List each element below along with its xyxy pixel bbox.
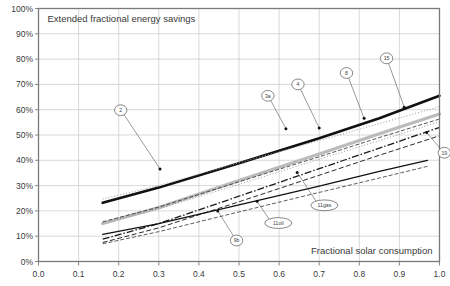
y-tick-label: 100% [11,4,33,14]
callout-leader-3a [271,101,286,129]
callout-label-3a: 3a [265,93,271,99]
callout-anchor-dot [363,117,366,120]
chart-figure: 0%10%20%30%40%50%60%70%80%90%100%0.00.10… [0,0,450,286]
axis-tick-labels: 0%10%20%30%40%50%60%70%80%90%100%0.00.10… [11,4,445,279]
x-tick-label: 0.6 [273,269,285,279]
callout-label-2: 2 [119,107,122,113]
x-tick-label: 0.3 [153,269,165,279]
callout-label-11gas: 11gas [318,202,332,208]
x-tick-label: 1.0 [434,269,446,279]
y-tick-label: 0% [21,257,34,267]
x-axis-caption: Fractional solar consumption [311,245,432,256]
callout-label-19: 19 [441,150,447,156]
y-tick-label: 20% [16,206,33,216]
x-tick-label: 0.4 [193,269,205,279]
callout-anchor-dot [425,131,428,134]
x-tick-label: 0.1 [73,269,85,279]
callout-leader-9b [218,211,234,236]
x-tick-label: 0.8 [353,269,365,279]
callout-anchor-dot [403,106,406,109]
callout-anchor-dot [216,209,219,212]
x-tick-label: 0.9 [393,269,405,279]
page-title: Extended fractional energy savings [48,13,196,24]
callout-anchor-dot [159,167,162,170]
y-tick-label: 80% [16,54,33,64]
line-chart-svg: 0%10%20%30%40%50%60%70%80%90%100%0.00.10… [0,0,450,286]
y-tick-label: 10% [16,231,33,241]
y-tick-label: 30% [16,181,33,191]
x-tick-label: 0.2 [113,269,125,279]
x-tick-label: 0.5 [233,269,245,279]
callout-anchor-dot [296,171,299,174]
y-tick-label: 60% [16,105,33,115]
callout-label-15: 15 [384,55,390,61]
y-tick-label: 50% [16,130,33,140]
x-tick-label: 0.7 [313,269,325,279]
x-tick-label: 0.0 [33,269,45,279]
callout-label-4: 4 [297,81,300,87]
y-tick-label: 70% [16,79,33,89]
callout-leader-2 [124,115,160,169]
callout-anchor-dot [256,200,259,203]
callout-leader-15 [389,64,405,108]
callout-anchor-dot [284,127,287,130]
callout-leader-11oil [257,201,269,219]
callout-label-8: 8 [345,70,348,76]
callout-label-11oil: 11oil [273,220,284,226]
callout-anchor-dot [318,126,321,129]
callout-leader-4 [301,89,320,128]
y-tick-label: 40% [16,155,33,165]
y-tick-label: 90% [16,29,33,39]
series-line-11oil [103,166,428,243]
callout-label-9b: 9b [234,237,240,243]
